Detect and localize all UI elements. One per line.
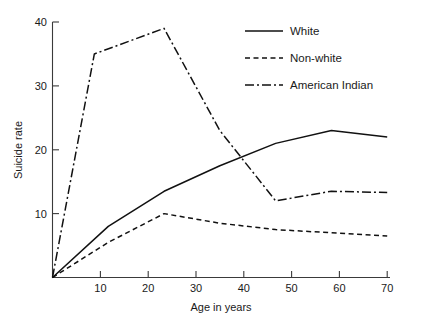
y-axis-ticks (53, 22, 60, 214)
y-axis-tick-labels: 40 30 20 10 (35, 16, 47, 220)
suicide-rate-line-chart: 40 30 20 10 10 20 30 40 50 60 70 Age in … (0, 0, 426, 326)
y-tick-label: 20 (35, 144, 47, 156)
x-tick-label: 40 (238, 282, 250, 294)
legend-label-non-white: Non-white (290, 52, 342, 64)
x-tick-label: 30 (190, 282, 202, 294)
x-tick-label: 70 (381, 282, 393, 294)
legend-label-white: White (290, 25, 319, 37)
x-tick-label: 10 (94, 282, 106, 294)
x-tick-label: 60 (333, 282, 345, 294)
x-axis-ticks (100, 271, 387, 278)
chart-legend: White Non-white American Indian (245, 25, 373, 91)
y-axis-title: Suicide rate (12, 121, 24, 179)
x-tick-label: 50 (285, 282, 297, 294)
legend-label-american-indian: American Indian (290, 79, 373, 91)
x-tick-label: 20 (142, 282, 154, 294)
series-line-non-white (53, 214, 388, 278)
y-tick-label: 10 (35, 208, 47, 220)
series-line-white (53, 131, 388, 278)
x-axis-tick-labels: 10 20 30 40 50 60 70 (94, 282, 393, 294)
series-line-american-indian (53, 28, 388, 277)
y-tick-label: 40 (35, 16, 47, 28)
x-axis-title: Age in years (190, 301, 252, 313)
y-tick-label: 30 (35, 80, 47, 92)
